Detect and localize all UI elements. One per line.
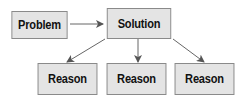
reason-node-1: Reason [38,63,98,95]
arrow-solution-reason3 [173,39,204,62]
reason-node-3: Reason [175,63,235,95]
problem-node: Problem [11,11,67,39]
solution-node: Solution [107,8,171,39]
reason-node-2: Reason [107,63,167,95]
arrow-solution-reason1 [67,39,105,62]
